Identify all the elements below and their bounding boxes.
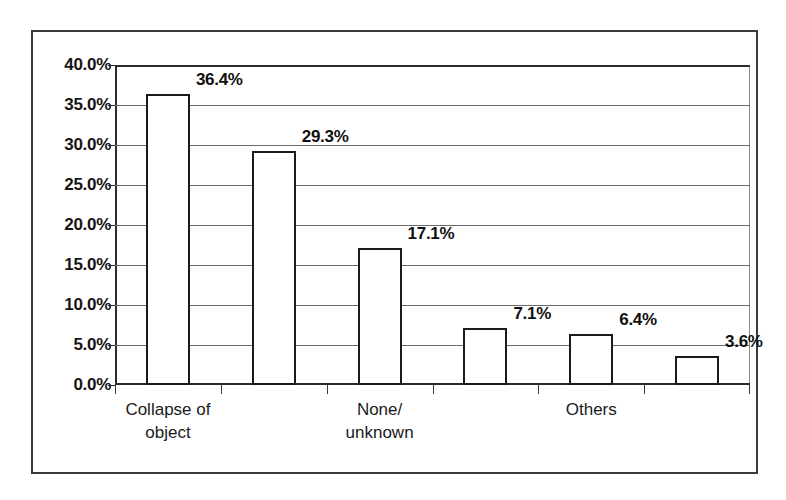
y-tick-mark: [108, 265, 115, 266]
x-category-label: None/unknown: [305, 398, 455, 444]
gridline: [115, 305, 750, 306]
y-tick-label: 25.0%: [37, 175, 111, 195]
y-tick-mark: [108, 225, 115, 226]
bar-value-label: 36.4%: [196, 70, 243, 90]
y-tick-mark: [108, 145, 115, 146]
x-axis-category-labels: Collapse ofobjectNone/unknownOthers: [115, 398, 750, 458]
y-tick-mark: [108, 185, 115, 186]
y-tick-mark: [108, 305, 115, 306]
chart-frame: 40.0%35.0%30.0%25.0%20.0%15.0%10.0%5.0%0…: [31, 30, 758, 474]
x-axis-tick-marks: [115, 385, 750, 394]
x-tick-mark: [644, 385, 645, 394]
x-tick-mark: [327, 385, 328, 394]
gridline: [115, 345, 750, 346]
y-tick-label: 40.0%: [37, 55, 111, 75]
gridline: [115, 265, 750, 266]
y-tick-label: 15.0%: [37, 255, 111, 275]
y-tick-label: 35.0%: [37, 95, 111, 115]
y-axis-tick-labels: 40.0%35.0%30.0%25.0%20.0%15.0%10.0%5.0%0…: [33, 65, 111, 385]
y-tick-mark: [108, 385, 115, 386]
bar[interactable]: [569, 334, 613, 385]
x-tick-mark: [538, 385, 539, 394]
bar-value-label: 29.3%: [302, 127, 349, 147]
y-tick-label: 10.0%: [37, 295, 111, 315]
gridline: [115, 185, 750, 186]
y-tick-mark: [108, 345, 115, 346]
x-category-label-line: Collapse of: [93, 398, 243, 421]
y-tick-label: 0.0%: [37, 375, 111, 395]
y-tick-label: 30.0%: [37, 135, 111, 155]
gridline: [115, 145, 750, 146]
x-category-label-line: None/: [305, 398, 455, 421]
x-tick-mark: [221, 385, 222, 394]
bar[interactable]: [146, 94, 190, 385]
x-category-label: Collapse ofobject: [93, 398, 243, 444]
x-tick-mark: [115, 385, 116, 394]
y-tick-mark: [108, 105, 115, 106]
plot-area: 36.4%29.3%17.1%7.1%6.4%3.6%: [115, 65, 750, 385]
x-category-label: Others: [516, 398, 666, 421]
x-category-label-line: Others: [516, 398, 666, 421]
x-category-label-line: unknown: [305, 421, 455, 444]
y-tick-label: 20.0%: [37, 215, 111, 235]
bar[interactable]: [675, 356, 719, 385]
y-tick-label: 5.0%: [37, 335, 111, 355]
y-tick-mark: [108, 65, 115, 66]
bar-value-label: 6.4%: [619, 310, 657, 330]
x-category-label-line: object: [93, 421, 243, 444]
bar-value-label: 7.1%: [513, 304, 551, 324]
gridline: [115, 105, 750, 106]
x-tick-mark: [433, 385, 434, 394]
gridline: [115, 65, 750, 67]
x-tick-mark: [749, 385, 750, 394]
bar-value-label: 3.6%: [725, 332, 763, 352]
bar[interactable]: [252, 151, 296, 385]
bar-value-label: 17.1%: [408, 224, 455, 244]
bar[interactable]: [358, 248, 402, 385]
bar[interactable]: [463, 328, 507, 385]
